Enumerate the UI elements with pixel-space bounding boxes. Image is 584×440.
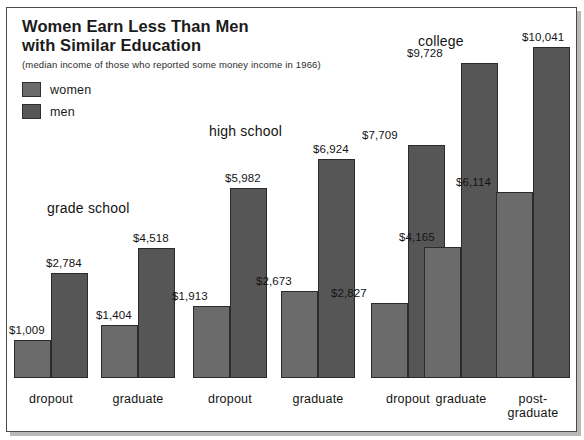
bar-women-grade-school-graduate	[101, 325, 138, 378]
bar-women-college-dropout	[371, 303, 408, 378]
bar-value-women-post-graduate: $6,114	[456, 176, 491, 188]
group-label-post-graduate: post- graduate	[492, 392, 574, 420]
bar-value-men-grade-school-dropout: $2,784	[46, 257, 82, 269]
bar-men-post-graduate	[533, 47, 570, 378]
bar-women-grade-school-dropout	[14, 340, 51, 378]
bar-men-college-graduate	[461, 63, 498, 378]
bar-women-post-graduate	[496, 192, 533, 378]
bar-value-women-high-school-graduate: $2,673	[256, 275, 292, 287]
bar-value-men-grade-school-graduate: $4,518	[133, 232, 169, 244]
bar-men-grade-school-dropout	[51, 273, 88, 378]
bar-value-men-college-graduate: $9,728	[407, 47, 443, 59]
bar-value-women-college-dropout: $2,827	[331, 287, 367, 299]
category-label-grade-school: grade school	[47, 200, 130, 216]
plot-area: grade school high school college $1,009 …	[0, 0, 584, 440]
bar-value-men-college-dropout: $7,709	[362, 129, 398, 141]
group-label-grade-school-dropout: dropout	[11, 392, 91, 406]
group-label-post-graduate-text: post- graduate	[508, 392, 559, 420]
bar-men-grade-school-graduate	[138, 248, 175, 378]
group-label-high-school-dropout: dropout	[190, 392, 270, 406]
bar-women-high-school-graduate	[281, 291, 318, 378]
bar-women-high-school-dropout	[193, 306, 230, 378]
bar-value-men-high-school-graduate: $6,924	[313, 143, 349, 155]
bar-value-women-grade-school-dropout: $1,009	[9, 324, 45, 336]
bar-value-men-post-graduate: $10,041	[522, 31, 564, 43]
category-label-high-school: high school	[209, 123, 282, 139]
group-label-high-school-graduate: graduate	[274, 392, 362, 406]
bar-value-women-grade-school-graduate: $1,404	[96, 309, 132, 321]
chart-figure: Women Earn Less Than Men with Similar Ed…	[0, 0, 584, 440]
bar-men-high-school-graduate	[318, 159, 355, 378]
group-label-grade-school-graduate: graduate	[94, 392, 182, 406]
bar-value-women-college-graduate: $4,165	[399, 231, 435, 243]
bar-value-women-high-school-dropout: $1,913	[172, 290, 208, 302]
bar-value-men-high-school-dropout: $5,982	[225, 172, 261, 184]
bar-women-college-graduate	[424, 247, 461, 378]
